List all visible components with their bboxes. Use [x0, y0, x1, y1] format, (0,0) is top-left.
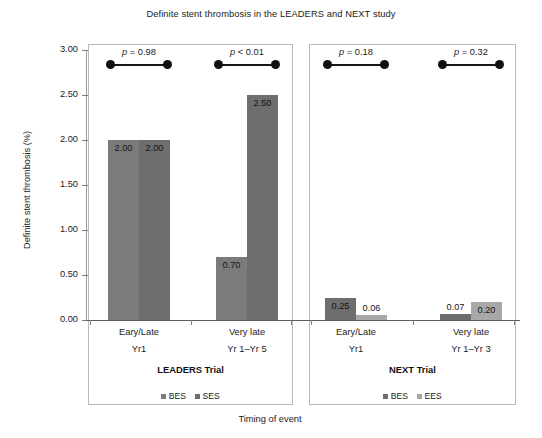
p-value-label: p = 0.32 [416, 47, 526, 57]
group-category-label: Very late [187, 327, 307, 337]
bar-leaders-ses [247, 95, 278, 320]
bar-value-label: 2.50 [243, 98, 283, 108]
group-subcategory-label: Yr1 [79, 344, 199, 354]
legend-swatch-icon [161, 394, 166, 399]
group-subcategory-label: Yr 1–Yr 3 [411, 344, 531, 354]
group-subcategory-label: Yr 1–Yr 5 [187, 344, 307, 354]
legend-item-ses[interactable]: SES [195, 391, 220, 401]
p-bracket-dot-left [106, 60, 115, 69]
legend-label: BES [169, 391, 186, 401]
p-bracket-dot-left [323, 60, 332, 69]
legend-label: EES [425, 391, 442, 401]
legend-swatch-icon [383, 394, 388, 399]
x-tick-mark [90, 320, 91, 325]
legend-leaders: BESSES [81, 391, 301, 401]
trial-label-leaders: LEADERS Trial [81, 364, 301, 375]
p-bracket-dot-left [438, 60, 447, 69]
legend-item-bes[interactable]: BES [161, 391, 186, 401]
x-axis-baseline [86, 320, 520, 321]
p-value-bracket [214, 60, 280, 70]
group-subcategory-label: Yr1 [296, 344, 416, 354]
legend-swatch-icon [417, 394, 422, 399]
group-category-label: Very late [411, 327, 531, 337]
p-bracket-dot-right [380, 60, 389, 69]
p-bracket-line [443, 64, 499, 66]
chart-title: Definite stent thrombosis in the LEADERS… [0, 9, 542, 19]
p-value-bracket [323, 60, 389, 70]
x-tick-mark [514, 320, 515, 325]
trial-label-next: NEXT Trial [303, 364, 523, 375]
legend-swatch-icon [195, 394, 200, 399]
legend-item-bes[interactable]: BES [383, 391, 408, 401]
bar-value-label: 0.20 [467, 305, 507, 315]
bar-value-label: 2.00 [135, 143, 175, 153]
x-tick-mark [191, 320, 192, 325]
x-tick-mark [311, 320, 312, 325]
group-category-label: Eary/Late [296, 327, 416, 337]
p-bracket-dot-left [214, 60, 223, 69]
p-bracket-dot-right [495, 60, 504, 69]
p-value-bracket [106, 60, 172, 70]
x-tick-mark [413, 320, 414, 325]
legend-label: SES [203, 391, 220, 401]
p-value-bracket [438, 60, 504, 70]
bar-leaders-ses [139, 140, 170, 320]
group-category-label: Eary/Late [79, 327, 199, 337]
p-bracket-line [219, 64, 275, 66]
p-bracket-line [328, 64, 384, 66]
chart-figure: Definite stent thrombosis in the LEADERS… [0, 0, 542, 438]
legend-item-ees[interactable]: EES [417, 391, 442, 401]
x-axis-title: Timing of event [180, 414, 360, 424]
bar-next-ees [356, 315, 387, 320]
legend-label: BES [391, 391, 408, 401]
p-bracket-line [111, 64, 167, 66]
p-value-label: p < 0.01 [192, 47, 302, 57]
bar-value-label: 0.06 [352, 303, 392, 313]
x-tick-mark [291, 320, 292, 325]
bar-value-label: 0.70 [212, 260, 252, 270]
bars-layer [0, 50, 542, 320]
bar-leaders-bes [108, 140, 139, 320]
p-bracket-dot-right [271, 60, 280, 69]
legend-next: BESEES [303, 391, 523, 401]
p-value-label: p = 0.98 [84, 47, 194, 57]
p-value-label: p = 0.18 [301, 47, 411, 57]
p-bracket-dot-right [163, 60, 172, 69]
